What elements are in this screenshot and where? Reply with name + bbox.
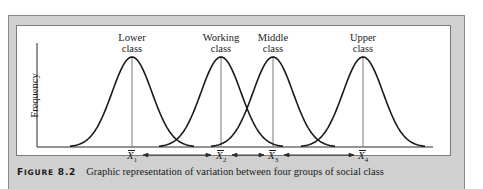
bell-curves xyxy=(70,57,425,146)
mean-label-1: X1 xyxy=(127,149,137,166)
group-label-working: Workingclass xyxy=(191,32,251,54)
mean-label-2: X2 xyxy=(216,149,226,166)
distribution-plot xyxy=(0,0,483,189)
figure-number: FIGURE 8.2 xyxy=(17,167,76,177)
group-label-middle: Middleclass xyxy=(243,32,303,54)
caption-text: Graphic representation of variation betw… xyxy=(86,166,384,177)
mean-label-3: X3 xyxy=(268,149,278,166)
mean-label-4: X4 xyxy=(358,149,368,166)
figure-caption: FIGURE 8.2Graphic representation of vari… xyxy=(17,166,384,177)
y-axis-label: Frequency xyxy=(29,66,40,126)
group-label-upper: Upperclass xyxy=(333,32,393,54)
group-label-lower: Lowerclass xyxy=(102,32,162,54)
difference-arrows xyxy=(143,153,354,156)
